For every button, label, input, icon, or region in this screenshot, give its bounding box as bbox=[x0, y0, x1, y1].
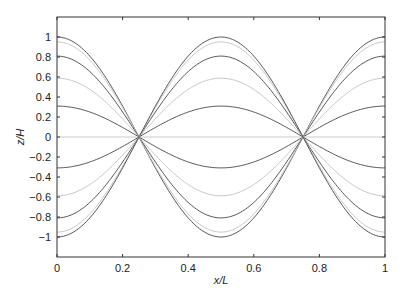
y-tick-label: 0.2 bbox=[36, 111, 51, 123]
y-tick-label: −0.8 bbox=[29, 211, 51, 223]
y-tick-label: 0.8 bbox=[36, 51, 51, 63]
y-tick-label: −0.6 bbox=[29, 191, 51, 203]
x-tick-label: 0 bbox=[54, 262, 60, 274]
curves bbox=[57, 37, 385, 237]
y-tick-label: 0 bbox=[45, 131, 51, 143]
x-tick-label: 0.4 bbox=[181, 262, 196, 274]
y-tick-label: −0.4 bbox=[29, 171, 51, 183]
x-tick-label: 0.2 bbox=[115, 262, 130, 274]
y-tick-label: −1 bbox=[38, 231, 51, 243]
x-tick-label: 0.6 bbox=[246, 262, 261, 274]
standing-wave-chart: 00.20.40.60.81 −1−0.8−0.6−0.4−0.200.20.4… bbox=[0, 0, 403, 298]
y-tick-label: −0.2 bbox=[29, 151, 51, 163]
x-tick-label: 1 bbox=[382, 262, 388, 274]
y-axis-label: z/H bbox=[14, 129, 26, 147]
x-axis-ticks: 00.20.40.60.81 bbox=[54, 17, 388, 274]
y-tick-label: 0.4 bbox=[36, 91, 51, 103]
x-axis-label: x/L bbox=[213, 274, 229, 286]
y-tick-label: 1 bbox=[45, 31, 51, 43]
y-tick-label: 0.6 bbox=[36, 71, 51, 83]
x-tick-label: 0.8 bbox=[312, 262, 327, 274]
